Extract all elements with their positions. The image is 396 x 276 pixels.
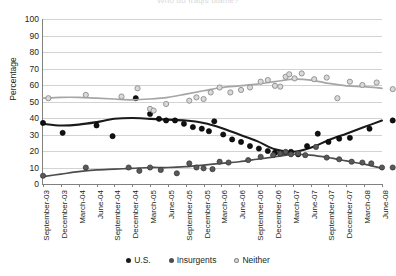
data-point bbox=[247, 85, 252, 90]
data-point bbox=[292, 76, 297, 81]
data-point bbox=[299, 71, 304, 76]
x-axis-tickmark bbox=[328, 184, 329, 187]
data-point bbox=[326, 139, 331, 144]
x-axis-tickmark bbox=[61, 184, 62, 187]
x-axis-tickmark bbox=[382, 184, 383, 187]
data-point bbox=[137, 168, 142, 173]
x-axis-tick-label: June-08 bbox=[381, 190, 390, 219]
data-point bbox=[296, 151, 301, 156]
data-point bbox=[347, 79, 352, 84]
chart-legend: U.S. Insurgents Neither bbox=[0, 255, 396, 265]
x-axis-tick-label: June-05 bbox=[166, 190, 175, 219]
data-point bbox=[110, 134, 115, 139]
x-axis-tick-label: March-05 bbox=[149, 190, 158, 224]
series-neither bbox=[43, 71, 395, 113]
data-point bbox=[158, 167, 163, 172]
data-point bbox=[246, 157, 251, 162]
data-point bbox=[278, 151, 283, 156]
data-point bbox=[337, 136, 342, 141]
x-axis-tickmark bbox=[186, 184, 187, 187]
data-point bbox=[40, 120, 45, 125]
x-axis-tickmark bbox=[132, 184, 133, 187]
y-axis-tick-label: 60 bbox=[30, 80, 39, 90]
y-axis-tick-label: 40 bbox=[30, 113, 39, 123]
x-axis-tickmark bbox=[97, 184, 98, 187]
data-point bbox=[287, 72, 292, 77]
data-point bbox=[349, 159, 354, 164]
data-point bbox=[258, 154, 263, 159]
data-point bbox=[217, 159, 222, 164]
x-axis-tickmark bbox=[239, 184, 240, 187]
x-axis-tick-label: December-03 bbox=[59, 190, 68, 238]
data-point bbox=[60, 130, 65, 135]
data-point bbox=[360, 160, 365, 165]
x-axis-tickmark bbox=[114, 184, 115, 187]
x-axis-tick-label: June-06 bbox=[238, 190, 247, 219]
data-point bbox=[164, 101, 169, 106]
data-point bbox=[313, 144, 318, 149]
legend-label-us: U.S. bbox=[134, 255, 151, 265]
data-point bbox=[324, 155, 329, 160]
data-point bbox=[272, 83, 277, 88]
data-point bbox=[194, 165, 199, 170]
data-point bbox=[151, 108, 156, 113]
data-point bbox=[390, 87, 395, 92]
x-axis-tickmark bbox=[43, 184, 44, 187]
plot-area: 1009080706050403020100 bbox=[43, 19, 382, 184]
data-point bbox=[324, 75, 329, 80]
data-point bbox=[258, 79, 263, 84]
data-point bbox=[390, 118, 395, 123]
data-point bbox=[83, 165, 88, 170]
data-point bbox=[390, 165, 395, 170]
legend-item-neither[interactable]: Neither bbox=[234, 255, 269, 265]
legend-label-insurgents: Insurgents bbox=[177, 255, 217, 265]
series-us bbox=[40, 96, 395, 157]
data-point bbox=[83, 92, 88, 97]
x-axis-tick-label: December-06 bbox=[273, 190, 282, 238]
x-axis-tickmark bbox=[311, 184, 312, 187]
x-axis-tick-label: September-04 bbox=[113, 190, 122, 241]
data-point bbox=[265, 77, 270, 82]
x-axis-tickmark bbox=[204, 184, 205, 187]
y-axis-tick-label: 30 bbox=[30, 130, 39, 140]
data-point bbox=[303, 153, 308, 158]
data-point bbox=[247, 143, 252, 148]
data-point bbox=[217, 85, 222, 90]
data-point bbox=[278, 84, 283, 89]
x-axis-tick-label: December-07 bbox=[345, 190, 354, 238]
series-layer bbox=[43, 19, 382, 184]
y-axis-tick-label: 70 bbox=[30, 64, 39, 74]
y-axis-tick-label: 90 bbox=[30, 31, 39, 41]
data-point bbox=[304, 143, 309, 148]
legend-item-insurgents[interactable]: Insurgents bbox=[169, 255, 217, 265]
x-axis-labels: September-03December-03March-04June-04Se… bbox=[43, 190, 382, 248]
x-axis-tickmark bbox=[168, 184, 169, 187]
y-axis-tick-label: 80 bbox=[30, 47, 39, 57]
data-point bbox=[374, 80, 379, 85]
chart-title: Who do Iraqis blame? bbox=[0, 0, 396, 5]
x-axis-tickmark bbox=[150, 184, 151, 187]
data-point bbox=[369, 161, 374, 166]
data-point bbox=[347, 135, 352, 140]
data-point bbox=[172, 118, 177, 123]
legend-label-neither: Neither bbox=[242, 255, 269, 265]
x-axis-tickmark bbox=[346, 184, 347, 187]
data-point bbox=[208, 90, 213, 95]
data-point bbox=[135, 86, 140, 91]
y-axis-label: Percentage bbox=[8, 44, 18, 114]
data-point bbox=[206, 129, 211, 134]
x-axis-tickmark bbox=[79, 184, 80, 187]
data-point bbox=[119, 94, 124, 99]
data-point bbox=[337, 157, 342, 162]
data-point bbox=[271, 153, 276, 158]
data-point bbox=[256, 146, 261, 151]
trend-line bbox=[43, 79, 382, 100]
legend-item-us[interactable]: U.S. bbox=[126, 255, 151, 265]
data-point bbox=[265, 148, 270, 153]
data-point bbox=[212, 119, 217, 124]
x-axis-tick-label: September-06 bbox=[256, 190, 265, 241]
data-point bbox=[238, 87, 243, 92]
x-axis-tick-label: June-04 bbox=[95, 190, 104, 219]
x-axis-tickmark bbox=[364, 184, 365, 187]
series-insurgents bbox=[40, 144, 395, 178]
